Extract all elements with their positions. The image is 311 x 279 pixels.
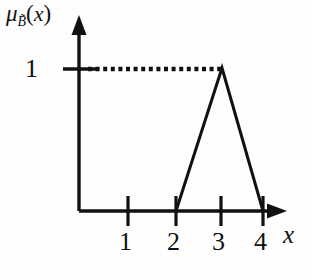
x-tick-label-4: 4 bbox=[254, 229, 267, 255]
x-axis-title: x bbox=[283, 222, 294, 247]
y-axis-arrowhead bbox=[72, 15, 87, 35]
x-axis-arrowhead bbox=[267, 204, 287, 219]
x-tick-label-3: 3 bbox=[212, 229, 225, 255]
subscript-b-tilde: B̃ bbox=[18, 15, 27, 29]
mu-glyph: μ bbox=[6, 1, 18, 26]
y-axis-title: μB̃(x) bbox=[6, 2, 51, 29]
y-tick-label-1: 1 bbox=[25, 56, 38, 82]
fuzzy-membership-figure: μB̃(x) 1 1 2 3 4 x bbox=[0, 0, 311, 279]
open-paren: ( bbox=[26, 1, 34, 26]
x-tick-label-2: 2 bbox=[167, 229, 180, 255]
variable-x: x bbox=[34, 1, 44, 26]
membership-function-curve bbox=[176, 68, 263, 211]
x-tick-label-1: 1 bbox=[119, 229, 132, 255]
close-paren: ) bbox=[44, 1, 52, 26]
